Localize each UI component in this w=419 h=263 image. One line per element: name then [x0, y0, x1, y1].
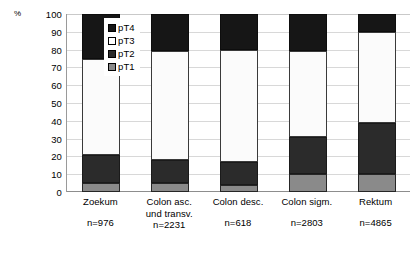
stacked-bar[interactable]	[220, 14, 258, 192]
category-sample-count: n=2231	[135, 219, 204, 230]
y-axis-tick-label: 50	[51, 99, 62, 108]
y-axis-tick-label: 40	[51, 116, 62, 125]
bar-segment-pt4[interactable]	[289, 14, 327, 51]
bar-segment-pt3[interactable]	[151, 51, 189, 160]
bar-group	[273, 14, 342, 192]
bar-segment-pt3[interactable]	[358, 32, 396, 123]
category-label-group: Colon sigm.n=2803	[272, 196, 341, 228]
legend-swatch-icon	[108, 63, 116, 71]
bar-segment-pt1[interactable]	[151, 183, 189, 192]
bar-segment-pt4[interactable]	[358, 14, 396, 32]
legend-item-pt2[interactable]: pT2	[108, 47, 135, 60]
category-sample-count: n=618	[204, 217, 273, 228]
bar-segment-pt2[interactable]	[289, 137, 327, 174]
bar-segment-pt2[interactable]	[151, 160, 189, 183]
bar-segment-pt3[interactable]	[289, 51, 327, 136]
bar-segment-pt4[interactable]	[220, 14, 258, 50]
legend-item-label: pT2	[118, 49, 135, 59]
y-axis-tick-label: 70	[51, 63, 62, 72]
legend: pT4pT3pT2pT1	[104, 18, 140, 76]
legend-item-pt4[interactable]: pT4	[108, 21, 135, 34]
legend-swatch-icon	[108, 50, 116, 58]
legend-item-label: pT3	[118, 36, 135, 46]
legend-item-label: pT4	[118, 23, 135, 33]
x-axis-category-labels: Zoekumn=976Colon asc.und transv.n=2231Co…	[66, 196, 410, 256]
bar-segment-pt1[interactable]	[289, 174, 327, 192]
bar-group	[136, 14, 205, 192]
y-axis-tick-label: 30	[51, 134, 62, 143]
stacked-bar-chart: % 1009080706050403020100 pT4pT3pT2pT1 Zo…	[0, 0, 419, 263]
bar-group	[342, 14, 411, 192]
y-axis-tick-label: 10	[51, 170, 62, 179]
category-name: Rektum	[341, 196, 410, 208]
category-label-group: Rektumn=4865	[341, 196, 410, 228]
category-name: Colon desc.	[204, 196, 273, 208]
bar-segment-pt4[interactable]	[151, 14, 189, 51]
y-axis-tick-label: 100	[46, 10, 62, 19]
category-name: Zoekum	[66, 196, 135, 208]
bar-segment-pt3[interactable]	[220, 50, 258, 162]
category-label-group: Colon desc.n=618	[204, 196, 273, 228]
stacked-bar[interactable]	[358, 14, 396, 192]
category-label-group: Zoekumn=976	[66, 196, 135, 228]
legend-item-label: pT1	[118, 62, 135, 72]
category-sample-count: n=976	[66, 217, 135, 228]
y-axis-tick-label: 60	[51, 81, 62, 90]
category-sample-count: n=4865	[341, 217, 410, 228]
legend-swatch-icon	[108, 24, 116, 32]
y-axis-tick-label: 20	[51, 152, 62, 161]
stacked-bar[interactable]	[289, 14, 327, 192]
category-label-group: Colon asc.und transv.n=2231	[135, 196, 204, 230]
category-name: und transv.	[135, 208, 204, 220]
legend-item-pt1[interactable]: pT1	[108, 60, 135, 73]
bar-segment-pt2[interactable]	[220, 162, 258, 185]
y-axis-tick-label: 80	[51, 45, 62, 54]
bar-segment-pt2[interactable]	[358, 123, 396, 175]
y-axis: % 1009080706050403020100	[0, 14, 66, 192]
bar-segment-pt1[interactable]	[82, 183, 120, 192]
legend-swatch-icon	[108, 37, 116, 45]
legend-item-pt3[interactable]: pT3	[108, 34, 135, 47]
y-axis-unit-label: %	[14, 10, 21, 18]
bar-group	[205, 14, 274, 192]
y-axis-tick-label: 0	[57, 188, 62, 197]
bar-segment-pt1[interactable]	[220, 185, 258, 192]
category-name: Colon asc.	[135, 196, 204, 208]
bar-segment-pt2[interactable]	[82, 155, 120, 183]
category-sample-count: n=2803	[272, 217, 341, 228]
category-name: Colon sigm.	[272, 196, 341, 208]
y-axis-tick-label: 90	[51, 27, 62, 36]
stacked-bar[interactable]	[151, 14, 189, 192]
bar-segment-pt1[interactable]	[358, 174, 396, 192]
